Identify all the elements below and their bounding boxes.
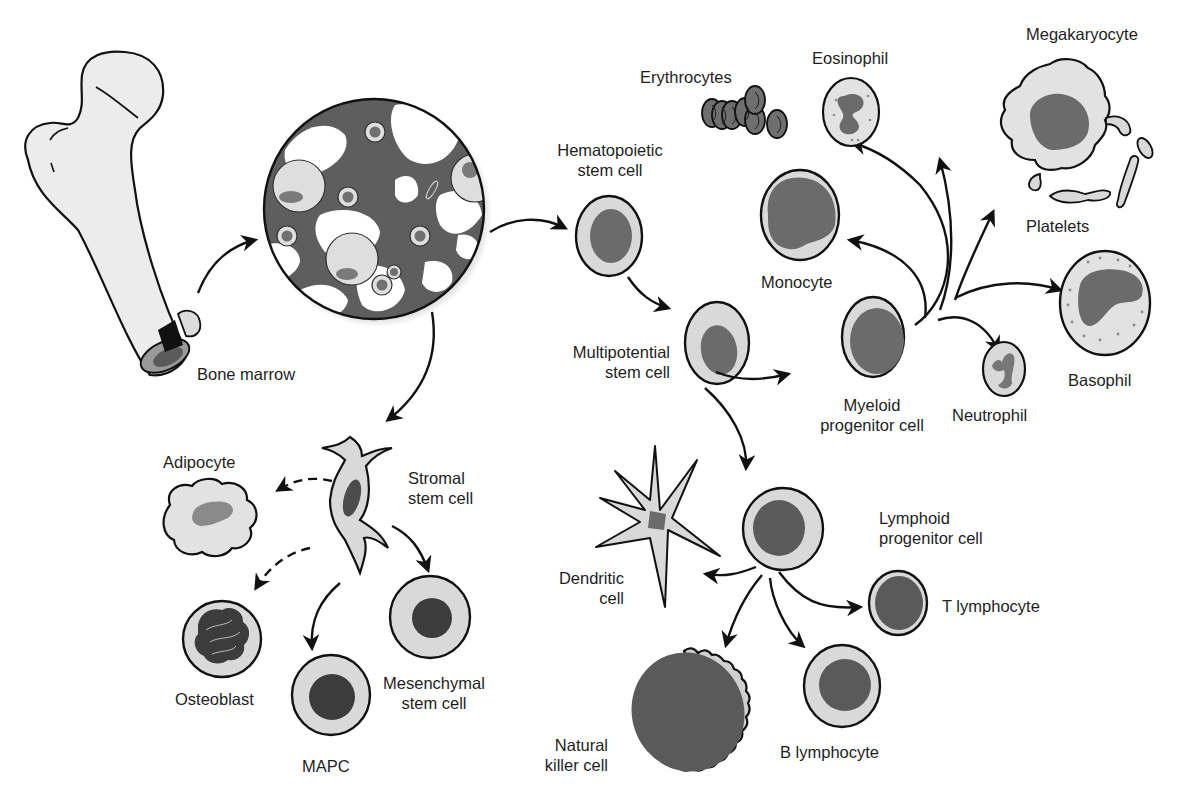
- arrow-hsc-to-mpsc: [628, 277, 668, 308]
- label-line: progenitor cell: [805, 415, 939, 435]
- arrow-marrow-to-hsc: [490, 220, 565, 232]
- basophil-icon: [1060, 251, 1150, 355]
- osteoblast-icon: [183, 601, 261, 677]
- adipocyte-icon: [164, 479, 257, 556]
- stromal-stem-cell-icon: [322, 437, 392, 573]
- b-lymphocyte-icon: [804, 645, 880, 727]
- label-natural-killer-cell: Natural killer cell: [520, 735, 608, 775]
- label-line: stem cell: [548, 160, 672, 180]
- label-b-lymphocyte: B lymphocyte: [780, 742, 879, 762]
- label-line: Dendritic: [520, 568, 624, 588]
- label-megakaryocyte: Megakaryocyte: [1026, 24, 1138, 44]
- label-platelets: Platelets: [1026, 216, 1089, 236]
- label-mesenchymal-stem-cell: Mesenchymal stem cell: [372, 673, 496, 713]
- erythrocytes-icon: [702, 86, 787, 138]
- label-line: Stromal: [408, 468, 473, 488]
- label-stromal-stem-cell: Stromal stem cell: [408, 468, 473, 508]
- label-line: Natural: [520, 735, 608, 755]
- mapc-icon: [292, 655, 370, 735]
- label-line: killer cell: [520, 755, 608, 775]
- hematopoietic-stem-cell-icon: [576, 196, 642, 276]
- label-line: Multipotential: [560, 342, 670, 362]
- label-myeloid-progenitor-cell: Myeloid progenitor cell: [805, 395, 939, 435]
- mesenchymal-stem-cell-icon: [390, 576, 470, 658]
- label-line: Myeloid: [805, 395, 939, 415]
- label-neutrophil: Neutrophil: [952, 405, 1027, 425]
- label-line: Mesenchymal: [372, 673, 496, 693]
- label-line: stem cell: [408, 488, 473, 508]
- arrow-marrow-to-stromal: [388, 312, 434, 420]
- natural-killer-cell-icon: [615, 636, 761, 787]
- lymphoid-progenitor-cell-icon: [743, 488, 823, 570]
- label-line: cell: [520, 588, 624, 608]
- label-line: stem cell: [372, 693, 496, 713]
- label-hematopoietic-stem-cell: Hematopoietic stem cell: [548, 140, 672, 180]
- label-eosinophil: Eosinophil: [812, 48, 888, 68]
- megakaryocyte-icon: [1001, 59, 1110, 170]
- label-adipocyte: Adipocyte: [163, 452, 235, 472]
- monocyte-icon: [761, 170, 839, 260]
- label-line: Hematopoietic: [548, 140, 672, 160]
- myeloid-progenitor-cell-icon: [842, 297, 904, 377]
- arrow-bone-to-marrow: [198, 240, 255, 293]
- label-bone-marrow: Bone marrow: [197, 364, 295, 384]
- neutrophil-icon: [983, 342, 1025, 396]
- label-mapc: MAPC: [302, 756, 350, 776]
- label-t-lymphocyte: T lymphocyte: [942, 596, 1040, 616]
- label-monocyte: Monocyte: [761, 272, 833, 292]
- label-multipotential-stem-cell: Multipotential stem cell: [560, 342, 670, 382]
- label-dendritic-cell: Dendritic cell: [520, 568, 624, 608]
- lymphoid-branch-arrows: [706, 567, 860, 646]
- arrow-mpsc-to-lymphoid: [705, 388, 746, 468]
- cell-lineage-diagram: Bone marrow Hematopoietic stem cell Mult…: [0, 0, 1186, 803]
- t-lymphocyte-icon: [869, 571, 927, 635]
- eosinophil-icon: [823, 78, 879, 146]
- femur-bone-icon: [25, 52, 200, 380]
- label-line: stem cell: [560, 362, 670, 382]
- label-line: Lymphoid: [879, 508, 983, 528]
- label-line: progenitor cell: [879, 528, 983, 548]
- label-erythrocytes: Erythrocytes: [640, 67, 732, 87]
- label-basophil: Basophil: [1068, 370, 1131, 390]
- label-lymphoid-progenitor-cell: Lymphoid progenitor cell: [879, 508, 983, 548]
- label-osteoblast: Osteoblast: [175, 689, 254, 709]
- bone-marrow-magnified-icon: [260, 95, 501, 331]
